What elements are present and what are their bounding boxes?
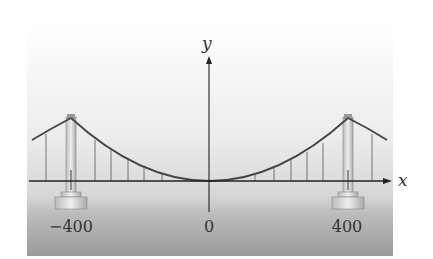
- x-axis-label: x: [398, 170, 408, 190]
- bridge-diagram: x y −400 0 400: [0, 0, 433, 259]
- y-axis-label: y: [201, 33, 212, 53]
- tick-label-left: −400: [49, 217, 93, 236]
- tick-label-right: 400: [332, 217, 363, 236]
- tick-label-origin: 0: [204, 217, 214, 236]
